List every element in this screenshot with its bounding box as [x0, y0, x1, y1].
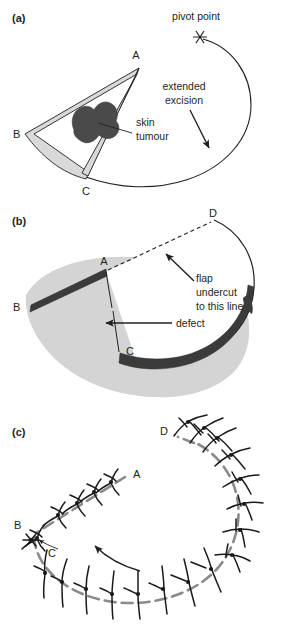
- panel-a-vertex-b: B: [13, 128, 20, 140]
- suture-line-main-arc: [34, 443, 239, 603]
- extended-excision-arrow: [190, 110, 209, 148]
- suture-stitch: [227, 495, 263, 520]
- panel-b-label: (b): [12, 215, 26, 227]
- suture-stitch: [203, 428, 236, 452]
- suture-stitch: [100, 571, 114, 619]
- panel-c-label: (c): [12, 426, 26, 438]
- suture-group-upper: [22, 469, 119, 551]
- pivot-point-asterisk-icon: [193, 31, 207, 43]
- suture-stitch: [124, 571, 140, 619]
- suture-group-lower: [34, 548, 221, 619]
- panel-c-vertex-a: A: [133, 468, 141, 480]
- skin-tumour-label-line1: skin: [136, 116, 155, 128]
- panel-a: (a) skin tumour pivot point extended exc: [12, 10, 251, 197]
- panel-a-label: (a): [12, 12, 26, 24]
- panel-c-vertex-c: C: [48, 547, 56, 559]
- panel-b-vertex-d: D: [209, 207, 217, 219]
- panel-b: (b) flap undercut: [12, 207, 254, 397]
- panel-b-vertex-a: A: [100, 255, 108, 267]
- suture-stitch: [190, 418, 223, 443]
- panel-a-vertex-c: C: [82, 185, 90, 197]
- panel-c-vertex-b: B: [14, 519, 21, 531]
- suture-stitch: [223, 519, 259, 547]
- panel-b-vertex-c: C: [126, 345, 134, 357]
- panel-c-vertex-d: D: [160, 425, 168, 437]
- panel-b-vertex-b: B: [13, 301, 20, 313]
- figure-root: (a) skin tumour pivot point extended exc: [0, 0, 290, 624]
- rotation-direction-arrow: [95, 546, 140, 571]
- suture-stitch-b-corner: [23, 534, 39, 546]
- panel-a-vertex-a: A: [132, 49, 140, 61]
- flap-undercut-label-line1: flap: [196, 272, 213, 284]
- defect-label: defect: [176, 317, 205, 329]
- extended-excision-label-line2: excision: [165, 94, 203, 106]
- flap-undercut-label-line2: undercut: [196, 286, 237, 298]
- surgical-flap-diagram: (a) skin tumour pivot point extended exc: [0, 0, 290, 624]
- skin-tumour-label-line2: tumour: [136, 130, 169, 142]
- panel-c: (c): [12, 415, 263, 619]
- suture-stitch: [149, 566, 167, 614]
- suture-stitch: [171, 559, 195, 606]
- suture-group-right: [174, 415, 263, 572]
- pivot-point-label: pivot point: [172, 10, 220, 22]
- flap-undercut-label-line3: to this line: [196, 300, 243, 312]
- suture-stitch: [215, 544, 250, 572]
- extended-excision-label-line1: extended: [162, 80, 205, 92]
